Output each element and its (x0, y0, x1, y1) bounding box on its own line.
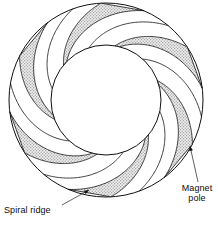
spiral-ridge (68, 135, 148, 197)
spiral-ridge-label: Spiral ridge (4, 206, 51, 216)
pole-inner-rim (51, 45, 161, 155)
spiral-ridge (158, 81, 193, 178)
figure-root: Spiral ridge Magnetpole (0, 0, 218, 228)
magnet-pole-label: Magnetpole (176, 184, 218, 203)
spiral-ridge (10, 112, 97, 164)
spiral-ridge (20, 23, 55, 120)
spiral-ridge (115, 36, 202, 88)
spiral-ridge-group (10, 3, 203, 197)
magnet-pole-label-line2: pole (176, 194, 218, 204)
magnet-pole-label-line1: Magnet (182, 183, 213, 193)
leader-line-magnet-pole (190, 146, 198, 182)
spiral-ridge (63, 3, 143, 65)
